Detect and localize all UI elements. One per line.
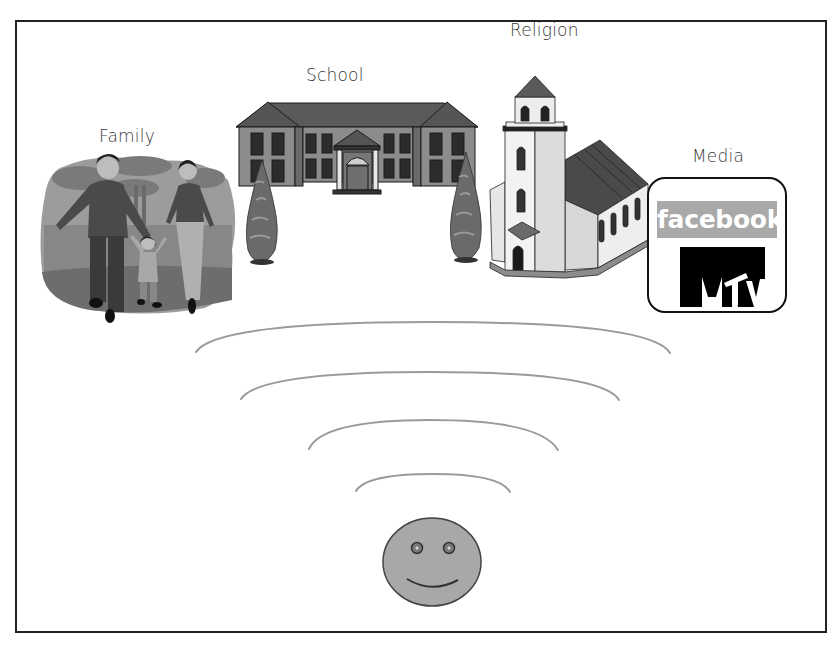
ripple-4 (356, 474, 510, 492)
family-illustration (41, 154, 236, 323)
school-illustration (236, 102, 478, 194)
ripple-3 (309, 420, 558, 450)
smiley-face-icon (383, 518, 481, 606)
label-media: Media (692, 146, 744, 166)
label-school: School (306, 65, 364, 85)
mtv-logo-icon (680, 247, 765, 307)
ripple-2 (241, 372, 619, 400)
influence-ripples (196, 322, 670, 492)
label-family: Family (99, 126, 155, 146)
scene-illustration (0, 0, 838, 646)
media-box: facebook (647, 177, 787, 313)
ripple-1 (196, 322, 670, 353)
facebook-logo: facebook (657, 201, 777, 238)
religion-illustration (490, 76, 648, 278)
label-religion: Religion (510, 20, 579, 40)
